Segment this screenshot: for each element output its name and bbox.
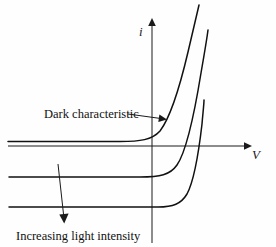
- voltage-axis: [8, 142, 252, 150]
- photodiode-iv-characteristic-figure: i V Dark characteristic Increasing light…: [0, 0, 276, 247]
- characteristic-curves: [8, 5, 208, 207]
- curve-dark-characteristic: [8, 5, 199, 142]
- voltage-axis-label: V: [252, 148, 260, 161]
- current-axis-arrowhead: [148, 18, 156, 26]
- dark-characteristic-label: Dark characteristic: [44, 108, 139, 121]
- current-axis-label: i: [139, 25, 143, 38]
- increasing-light-intensity-pointer: [58, 164, 69, 224]
- current-axis: [148, 18, 156, 243]
- curve-light-level-1: [9, 30, 208, 177]
- increasing-light-intensity-label: Increasing light intensity: [16, 230, 140, 243]
- voltage-axis-arrowhead: [244, 142, 252, 150]
- increasing-light-intensity-pointer-arrowhead: [59, 213, 68, 223]
- figure-canvas: [0, 0, 276, 247]
